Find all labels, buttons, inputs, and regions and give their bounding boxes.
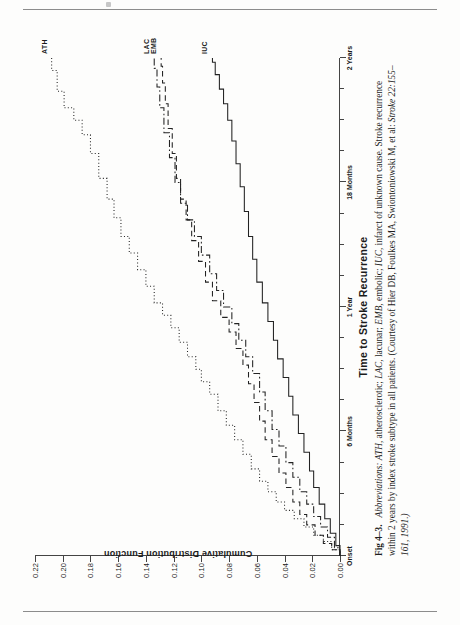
figure-stage: 0.000.020.040.060.080.100.120.140.160.18… <box>21 18 439 608</box>
figure-number: Fig 4–3. <box>374 524 384 556</box>
x-tick-label: 18 Months <box>346 165 353 200</box>
x-tick-minor <box>340 461 344 462</box>
y-tick <box>340 556 341 562</box>
x-tick-minor <box>340 88 344 89</box>
x-tick-minor <box>340 368 344 369</box>
x-tick-label: 1 Year <box>346 296 353 317</box>
x-axis-title: Time to Stroke Recurrence <box>357 58 369 556</box>
series-label-ath: ATH <box>41 39 48 54</box>
page-rule-top <box>23 9 437 10</box>
y-tick-label: 0.18 <box>86 563 95 578</box>
x-tick-minor <box>340 243 344 244</box>
x-tick-label: 6 Months <box>346 416 353 447</box>
page-mark <box>106 2 111 7</box>
y-tick-label: 0.02 <box>308 563 317 578</box>
abbr-lac-def: lacunar; <box>374 327 384 357</box>
x-tick-minor <box>340 492 344 493</box>
y-axis-title: Cumulative Distribution Function <box>26 548 331 558</box>
x-tick-label: Onset <box>346 546 353 566</box>
series-line-lac <box>154 58 340 556</box>
caption-lead: Abbreviations: <box>374 462 384 517</box>
abbr-emb: EMB, <box>374 303 384 324</box>
y-tick-label: 0.10 <box>197 563 206 578</box>
y-tick-label: 0.00 <box>336 563 345 578</box>
figure-caption: Fig 4–3. Abbreviations: ATH, atheroscler… <box>373 58 413 556</box>
series-label-emb: EMB <box>150 37 157 53</box>
y-tick-label: 0.08 <box>225 563 234 578</box>
series-label-lac: LAC <box>143 38 150 53</box>
abbr-lac: LAC, <box>374 359 384 378</box>
series-line-ath <box>52 58 340 556</box>
x-tick-minor <box>340 337 344 338</box>
y-tick-label: 0.16 <box>114 563 123 578</box>
y-tick-label: 0.12 <box>169 563 178 578</box>
x-tick-minor <box>340 212 344 213</box>
abbr-ath-def: atherosclerotic; <box>374 381 384 438</box>
y-tick-label: 0.06 <box>252 563 261 578</box>
x-tick-minor <box>340 523 344 524</box>
abbr-emb-def: embolic; <box>374 268 384 301</box>
abbr-iuc: IUC, <box>374 247 384 265</box>
y-tick-label: 0.14 <box>141 563 150 578</box>
page-canvas: 0.000.020.040.060.080.100.120.140.160.18… <box>0 0 460 625</box>
y-tick-label: 0.20 <box>58 563 67 578</box>
x-tick-minor <box>340 274 344 275</box>
y-tick-label: 0.22 <box>31 563 40 578</box>
series-line-iuc <box>212 58 340 556</box>
page-rule-bottom <box>23 611 437 612</box>
x-tick-label: 2 Years <box>346 45 353 69</box>
series-label-iuc: IUC <box>201 41 208 54</box>
plot-area: 0.000.020.040.060.080.100.120.140.160.18… <box>35 58 340 556</box>
caption-journal: Stroke <box>387 98 397 121</box>
x-tick-minor <box>340 150 344 151</box>
x-tick-minor <box>340 119 344 120</box>
curves-svg <box>35 58 340 556</box>
y-tick-label: 0.04 <box>280 563 289 578</box>
abbr-ath: ATH, <box>374 440 384 460</box>
x-tick-minor <box>340 399 344 400</box>
